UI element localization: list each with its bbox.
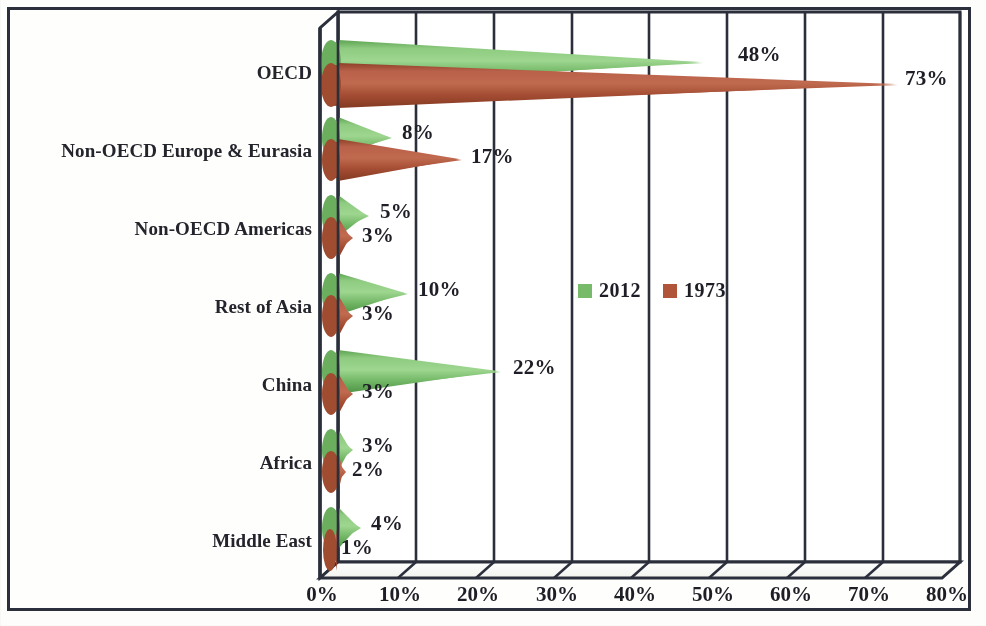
xtick-70: 70% <box>830 582 908 607</box>
value-label-non-oecd-europe-eurasia-2012: 8% <box>402 120 434 145</box>
xtick-0: 0% <box>283 582 361 607</box>
xtick-80: 80% <box>908 582 986 607</box>
legend-swatch-2012 <box>578 284 592 298</box>
value-label-rest-of-asia-1973: 3% <box>362 301 394 326</box>
category-label-non-oecd-americas: Non-OECD Americas <box>135 218 312 240</box>
category-label-middle-east: Middle East <box>212 530 312 552</box>
xtick-20: 20% <box>439 582 517 607</box>
category-axis-labels: OECD Non-OECD Europe & Eurasia Non-OECD … <box>0 0 312 626</box>
value-label-middle-east-2012: 4% <box>371 511 403 536</box>
value-label-africa-2012: 3% <box>362 433 394 458</box>
xtick-60: 60% <box>752 582 830 607</box>
category-label-non-oecd-europe-eurasia: Non-OECD Europe & Eurasia <box>61 140 312 162</box>
value-label-rest-of-asia-2012: 10% <box>418 277 461 302</box>
category-label-africa: Africa <box>260 452 312 474</box>
value-label-non-oecd-americas-1973: 3% <box>362 223 394 248</box>
legend-label-2012: 2012 <box>599 279 641 302</box>
value-label-non-oecd-europe-eurasia-1973: 17% <box>471 144 514 169</box>
bar-middleeast-1973 <box>323 529 339 571</box>
legend-entry-1973: 1973 <box>663 279 726 302</box>
chart-page: OECD Non-OECD Europe & Eurasia Non-OECD … <box>0 0 986 626</box>
value-label-non-oecd-americas-2012: 5% <box>380 199 412 224</box>
category-label-china: China <box>262 374 312 396</box>
xtick-50: 50% <box>674 582 752 607</box>
xtick-10: 10% <box>361 582 439 607</box>
xtick-30: 30% <box>518 582 596 607</box>
legend-swatch-1973 <box>663 284 677 298</box>
value-label-china-1973: 3% <box>362 379 394 404</box>
value-label-middle-east-1973: 1% <box>341 535 373 560</box>
legend-label-1973: 1973 <box>684 279 726 302</box>
xtick-40: 40% <box>596 582 674 607</box>
category-label-rest-of-asia: Rest of Asia <box>215 296 312 318</box>
value-label-africa-1973: 2% <box>352 457 384 482</box>
legend-entry-2012: 2012 <box>578 279 641 302</box>
chart-legend: 2012 1973 <box>578 279 726 302</box>
value-label-china-2012: 22% <box>513 355 556 380</box>
value-label-oecd-2012: 48% <box>738 42 781 67</box>
category-label-oecd: OECD <box>257 62 312 84</box>
value-label-oecd-1973: 73% <box>905 66 948 91</box>
